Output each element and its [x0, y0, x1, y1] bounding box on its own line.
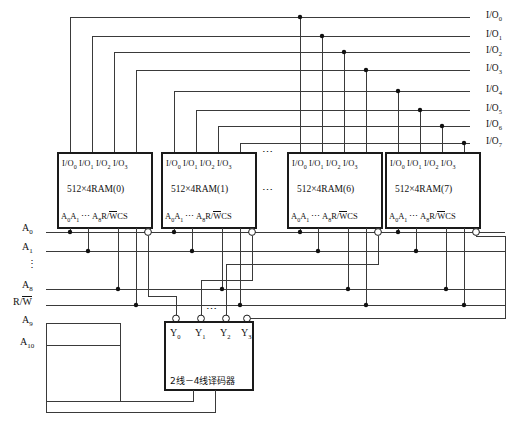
cs-route-ram0 — [148, 236, 176, 316]
bus-io5 — [196, 110, 470, 153]
bus-io0 — [70, 17, 470, 153]
ram7-io-pin-labels: I/O0 I/O1 I/O2 I/O3 — [390, 158, 456, 170]
ram1-addr-pin-labels: A0A1 ⋯ A8R/WCS — [165, 211, 232, 223]
bus-io7 — [240, 143, 470, 153]
signal-label-a9: A9 — [22, 314, 33, 328]
ram-row-ellipsis-top: ⋯ — [262, 146, 275, 159]
decoder-y0-bubble — [173, 315, 180, 322]
schematic-diagram: I/O0 I/O1 I/O2 I/O3 I/O4 I/O5 I/O6 I/O7 … — [0, 0, 522, 431]
ram7-cs-bubble — [473, 229, 480, 236]
ram0-address-drops — [70, 228, 136, 305]
decoder-caption: 2线－4线译码器 — [170, 374, 235, 387]
ram6-address-drops — [300, 228, 366, 305]
signal-label-a10: A10 — [20, 336, 34, 350]
decoder-output-label-y0: Y0 — [170, 327, 180, 340]
decoder-y2-bubble — [223, 315, 230, 322]
ram1-address-drops — [174, 228, 240, 305]
ram0-cs-bubble — [145, 229, 152, 236]
io-label-1: I/O1 — [486, 29, 502, 41]
signal-label-a1: A1 — [22, 241, 33, 255]
bus-taps-ram6 — [300, 17, 366, 153]
ram0-addr-pin-labels: A0A1 ⋯ A8R/WCS — [61, 211, 128, 223]
signal-label-a8: A8 — [22, 279, 33, 293]
ram1-title: 512×4RAM(1) — [171, 184, 228, 194]
ram6-cs-bubble — [375, 229, 382, 236]
ram6-addr-pin-labels: A0A1 ⋯ A8R/WCS — [291, 211, 358, 223]
ram7-addr-pin-labels: A0A1 ⋯ A8R/WCS — [389, 211, 456, 223]
bus-io1 — [92, 36, 470, 153]
bus-io2 — [114, 52, 470, 153]
ram0-io-pin-labels: I/O0 I/O1 I/O2 I/O3 — [62, 158, 128, 170]
ram7-title: 512×4RAM(7) — [395, 184, 452, 194]
io-label-0: I/O0 — [486, 10, 502, 22]
io-label-6: I/O6 — [486, 119, 502, 131]
io-label-2: I/O2 — [486, 45, 502, 57]
decoder-y3-bubble — [244, 315, 251, 322]
bus-taps-ram7 — [398, 91, 464, 153]
cs-route-ram7 — [247, 236, 505, 318]
left-vertical-ellipsis: ⋮ — [27, 258, 37, 269]
io-label-3: I/O3 — [486, 63, 502, 75]
io-label-5: I/O5 — [486, 103, 502, 115]
decoder-output-ellipsis: ⋯ — [206, 303, 219, 316]
ram1-io-pin-labels: I/O0 I/O1 I/O2 I/O3 — [166, 158, 232, 170]
ram7-address-drops — [398, 228, 464, 305]
ram-row-ellipsis-bottom: ⋯ — [262, 184, 275, 197]
io-label-4: I/O4 — [486, 84, 502, 96]
decoder-y1-bubble — [198, 315, 205, 322]
ram6-title: 512×4RAM(6) — [297, 184, 354, 194]
decoder-output-label-y1: Y1 — [195, 327, 205, 340]
signal-label-a0: A0 — [22, 222, 33, 236]
ram6-io-pin-labels: I/O0 I/O1 I/O2 I/O3 — [292, 158, 358, 170]
io-label-7: I/O7 — [486, 136, 502, 148]
address-junction-dots — [68, 230, 466, 307]
ram1-cs-bubble — [249, 229, 256, 236]
signal-label-rw: R/W — [13, 296, 32, 307]
decoder-output-label-y2: Y2 — [220, 327, 230, 340]
cs-route-ram6 — [226, 236, 378, 316]
decoder-output-label-y3: Y3 — [241, 327, 251, 340]
ram0-title: 512×4RAM(0) — [67, 184, 124, 194]
